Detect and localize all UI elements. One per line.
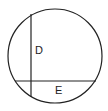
label-d: D <box>35 44 43 56</box>
circle-chords-diagram: D E <box>0 0 108 111</box>
label-e: E <box>55 84 62 96</box>
